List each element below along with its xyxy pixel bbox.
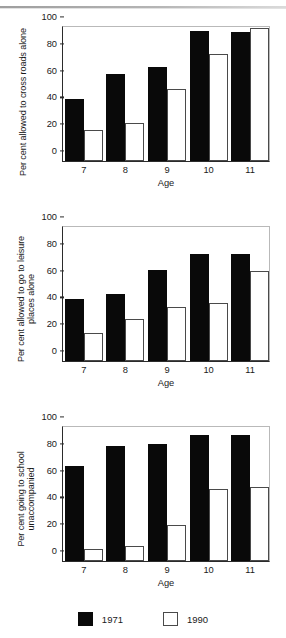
- plot-area: 7891011 020406080100: [62, 426, 270, 562]
- y-axis-tick-label: 0: [52, 346, 63, 356]
- x-axis-tick-label: 7: [81, 565, 86, 575]
- y-axis-tick-label: 20: [47, 319, 63, 329]
- x-axis-tick-label: 9: [164, 365, 169, 375]
- bar-group: 7: [63, 227, 105, 361]
- bar-group: 11: [229, 427, 271, 561]
- chart-panel-cross-roads: Per cent allowed to cross roads alone 78…: [0, 14, 286, 200]
- y-axis-tick-label: 100: [41, 212, 63, 222]
- x-axis-tick-label: 10: [203, 365, 213, 375]
- bar-group: 8: [105, 227, 147, 361]
- y-axis-tick-label: 40: [47, 292, 63, 302]
- x-axis-tick-label: 8: [123, 565, 128, 575]
- bar-1971-age-10: [190, 435, 209, 561]
- bar-1990-age-7: [84, 130, 103, 161]
- y-axis-tick-label: 80: [47, 39, 63, 49]
- bar-1990-age-9: [167, 525, 186, 561]
- bar-group: 10: [188, 427, 230, 561]
- bars-container: 7891011: [63, 227, 269, 361]
- legend-label-1990: 1990: [187, 614, 208, 625]
- bar-1990-age-7: [84, 549, 103, 561]
- bar-group: 8: [105, 27, 147, 161]
- bar-group: 8: [105, 427, 147, 561]
- y-axis-tick-label: 60: [47, 466, 63, 476]
- bar-1990-age-9: [167, 307, 186, 361]
- bars-container: 7891011: [63, 427, 269, 561]
- y-axis-tick-label: 60: [47, 66, 63, 76]
- x-axis-tick-label: 8: [123, 165, 128, 175]
- figure-page: Per cent allowed to cross roads alone 78…: [0, 0, 286, 638]
- y-axis-tick-label: 100: [41, 12, 63, 22]
- x-axis-tick-label: 7: [81, 165, 86, 175]
- x-axis-tick-label: 11: [245, 565, 255, 575]
- plot-area: 7891011 020406080100: [62, 26, 270, 162]
- bar-1971-age-7: [65, 99, 84, 161]
- legend-item-1990: 1990: [163, 612, 208, 626]
- bar-1971-age-7: [65, 299, 84, 361]
- legend-swatch-1971: [78, 612, 93, 626]
- bar-1990-age-9: [167, 89, 186, 161]
- y-axis-tick-label: 60: [47, 266, 63, 276]
- x-axis-title: Age: [62, 378, 270, 388]
- bar-1971-age-11: [231, 32, 250, 161]
- bar-1971-age-9: [148, 67, 167, 161]
- bar-1990-age-10: [209, 303, 228, 361]
- bar-1990-age-8: [125, 319, 144, 361]
- x-axis-tick-label: 11: [245, 165, 255, 175]
- bar-1971-age-8: [106, 294, 125, 361]
- y-axis-title: Per cent going to school unaccompanied: [16, 424, 34, 574]
- x-axis-tick-label: 9: [164, 165, 169, 175]
- bar-1971-age-9: [148, 270, 167, 361]
- bar-group: 11: [229, 227, 271, 361]
- x-axis-title: Age: [62, 578, 270, 588]
- bar-1971-age-9: [148, 444, 167, 561]
- y-axis-title: Per cent allowed to go to leisure places…: [16, 224, 34, 374]
- chart-panel-school-unaccompanied: Per cent going to school unaccompanied 7…: [0, 414, 286, 600]
- x-axis-tick-label: 7: [81, 365, 86, 375]
- bar-1971-age-10: [190, 254, 209, 361]
- figure-legend: 19711990: [0, 608, 286, 630]
- bar-1971-age-7: [65, 466, 84, 561]
- bar-group: 7: [63, 427, 105, 561]
- y-axis-tick-label: 40: [47, 492, 63, 502]
- bar-1990-age-10: [209, 489, 228, 561]
- bar-1990-age-11: [250, 271, 269, 361]
- y-axis-tick-label: 40: [47, 92, 63, 102]
- bar-group: 10: [188, 27, 230, 161]
- x-axis-tick-label: 11: [245, 365, 255, 375]
- bar-1971-age-11: [231, 435, 250, 561]
- y-axis-tick-label: 0: [52, 146, 63, 156]
- scan-edge-line-soft: [0, 8, 286, 9]
- y-axis-tick-label: 80: [47, 239, 63, 249]
- y-axis-tick-label: 0: [52, 546, 63, 556]
- bar-1990-age-11: [250, 487, 269, 561]
- bar-1990-age-7: [84, 333, 103, 361]
- bar-group: 9: [146, 227, 188, 361]
- bar-1990-age-10: [209, 54, 228, 161]
- bar-group: 9: [146, 27, 188, 161]
- y-axis-tick-label: 80: [47, 439, 63, 449]
- bar-group: 7: [63, 27, 105, 161]
- x-axis-tick-label: 9: [164, 565, 169, 575]
- x-axis-tick-label: 8: [123, 365, 128, 375]
- bar-group: 9: [146, 427, 188, 561]
- legend-label-1971: 1971: [102, 614, 123, 625]
- bar-1990-age-8: [125, 123, 144, 161]
- bar-1990-age-11: [250, 28, 269, 161]
- bar-1990-age-8: [125, 546, 144, 561]
- x-axis-tick-label: 10: [203, 565, 213, 575]
- bar-group: 10: [188, 227, 230, 361]
- x-axis-tick-label: 10: [203, 165, 213, 175]
- bar-1971-age-8: [106, 74, 125, 161]
- y-axis-tick-label: 20: [47, 519, 63, 529]
- chart-panel-leisure-places: Per cent allowed to go to leisure places…: [0, 214, 286, 400]
- y-axis-tick-label: 20: [47, 119, 63, 129]
- legend-item-1971: 1971: [78, 612, 123, 626]
- bar-1971-age-8: [106, 446, 125, 561]
- bar-1971-age-11: [231, 254, 250, 361]
- plot-area: 7891011 020406080100: [62, 226, 270, 362]
- bar-1971-age-10: [190, 31, 209, 161]
- bars-container: 7891011: [63, 27, 269, 161]
- x-axis-title: Age: [62, 178, 270, 188]
- y-axis-title: Per cent allowed to cross roads alone: [18, 28, 36, 176]
- y-axis-tick-label: 100: [41, 412, 63, 422]
